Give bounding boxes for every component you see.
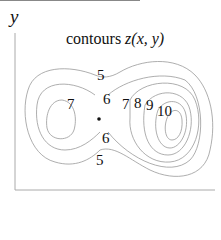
contour-label: 6: [103, 92, 111, 107]
contour-label: 7: [122, 97, 130, 112]
saddle-point-marker: [97, 117, 101, 121]
contour-label: 9: [146, 98, 154, 113]
contour-lines: [25, 61, 213, 176]
contour-label: 5: [96, 153, 104, 168]
contour-label: 5: [97, 68, 105, 83]
contour-label: 6: [102, 131, 110, 146]
contour-label: 8: [134, 96, 142, 111]
contour-label: 7: [67, 97, 75, 112]
contour-label: 10: [157, 104, 172, 119]
